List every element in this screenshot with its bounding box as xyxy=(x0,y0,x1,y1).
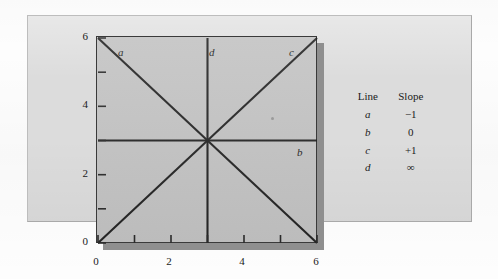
legend-slope-b: 0 xyxy=(388,124,434,142)
y-tick-label-2: 2 xyxy=(72,168,88,179)
x-axis-ticks xyxy=(98,235,317,243)
legend-line-c: c xyxy=(348,142,388,160)
line-label-d: d xyxy=(209,47,215,58)
x-tick-label-2: 2 xyxy=(161,256,177,267)
legend-header-row: Line Slope xyxy=(348,88,434,106)
legend-header-line: Line xyxy=(348,88,388,106)
scan-speck-artifact xyxy=(271,117,274,120)
legend-line-b: b xyxy=(348,124,388,142)
x-tick-label-4: 4 xyxy=(234,256,250,267)
lines-svg xyxy=(97,37,318,244)
figure-container: a d c b 6 4 2 0 0 2 4 6 Line Slope a −1 xyxy=(0,0,498,279)
x-tick-label-6: 6 xyxy=(308,256,324,267)
slope-legend-table: Line Slope a −1 b 0 c +1 d xyxy=(348,88,434,177)
y-axis-ticks xyxy=(98,38,106,243)
legend-slope-d: ∞ xyxy=(388,159,434,177)
line-label-c: c xyxy=(289,47,294,58)
y-tick-label-0: 0 xyxy=(72,236,88,247)
slope-legend: Line Slope a −1 b 0 c +1 d xyxy=(348,88,434,177)
table-row: a −1 xyxy=(348,106,434,124)
table-row: b 0 xyxy=(348,124,434,142)
table-row: c +1 xyxy=(348,142,434,160)
table-row: d ∞ xyxy=(348,159,434,177)
legend-line-a: a xyxy=(348,106,388,124)
legend-slope-c: +1 xyxy=(388,142,434,160)
legend-header-slope: Slope xyxy=(388,88,434,106)
line-label-a: a xyxy=(118,47,124,58)
line-label-b: b xyxy=(297,147,303,158)
legend-slope-a: −1 xyxy=(388,106,434,124)
y-tick-label-6: 6 xyxy=(72,31,88,42)
x-tick-label-0: 0 xyxy=(88,256,104,267)
legend-line-d: d xyxy=(348,159,388,177)
plot-area: a d c b xyxy=(96,36,317,243)
y-tick-label-4: 4 xyxy=(72,99,88,110)
